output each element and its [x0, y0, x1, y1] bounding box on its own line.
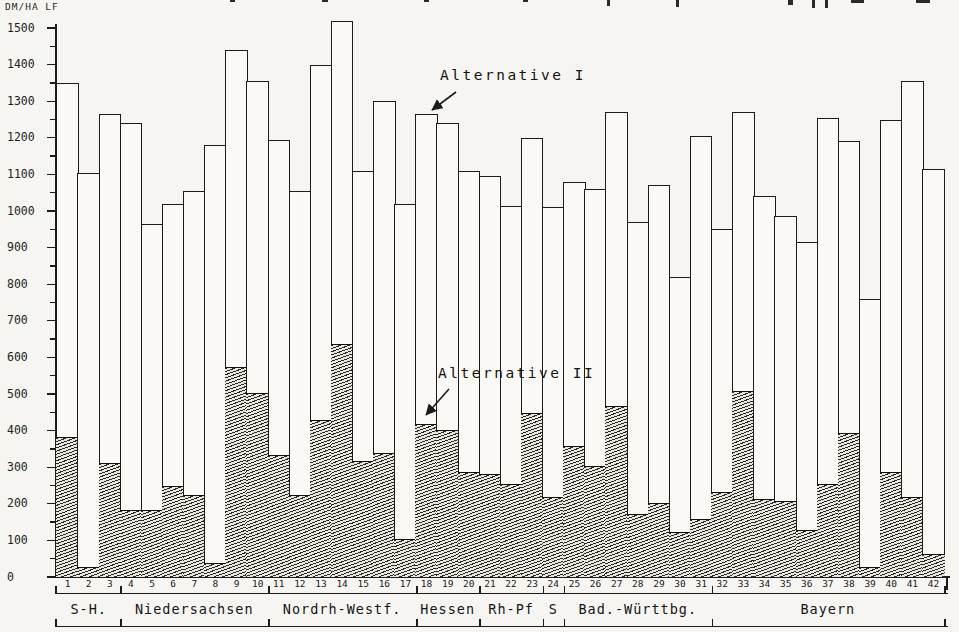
bar-alternative-2-segment: [732, 391, 755, 577]
bar-alternative-1: [648, 185, 671, 577]
bar-alternative-1: [859, 299, 882, 577]
x-tick-label: 2: [78, 578, 99, 589]
region-boundary-tick: [120, 619, 122, 627]
bar-alternative-2-segment: [99, 463, 122, 577]
bar-alternative-2-segment: [838, 433, 861, 577]
bar-alternative-1: [901, 81, 924, 577]
bar-alternative-1: [605, 112, 628, 577]
bar-alternative-2-segment: [521, 413, 544, 577]
bar-alternative-2-segment: [352, 461, 375, 577]
y-tick-label: 300: [7, 462, 49, 473]
y-tick-label: 0: [7, 572, 49, 583]
region-label: S-H.: [57, 601, 120, 617]
x-tick-label: 21: [479, 578, 500, 589]
annotation-alternative-2: Alternative II: [438, 365, 595, 381]
bar-alternative-1: [415, 114, 438, 577]
x-tick-label: 11: [268, 578, 289, 589]
bar-alternative-2-segment: [415, 424, 438, 577]
y-minor-tick: [50, 302, 55, 303]
x-tick-label: 17: [395, 578, 416, 589]
bar-alternative-2-segment: [310, 420, 333, 577]
x-tick-label: 26: [585, 578, 606, 589]
y-tick-label: 1200: [7, 132, 49, 143]
bar-alternative-1: [922, 169, 945, 577]
region-boundary-tick: [479, 586, 481, 594]
y-tick-label: 1000: [7, 206, 49, 217]
region-label: Nordrh-Westf.: [268, 601, 416, 617]
bar-alternative-1: [669, 277, 692, 577]
x-tick-label: 22: [501, 578, 522, 589]
bar-alternative-1: [310, 65, 333, 577]
y-tick-label: 1400: [7, 59, 49, 70]
x-tick-label: 32: [712, 578, 733, 589]
bar-alternative-2-segment: [563, 446, 586, 577]
bar-alternative-1: [289, 191, 312, 577]
bar-alternative-2-segment: [373, 453, 396, 577]
x-tick-label: 37: [817, 578, 838, 589]
region-boundary-tick: [416, 586, 418, 594]
bar-alternative-2-segment: [753, 499, 776, 577]
y-tick-label: 1100: [7, 169, 49, 180]
y-minor-tick: [50, 558, 55, 559]
y-minor-tick: [50, 375, 55, 376]
region-boundary-tick: [55, 586, 57, 594]
bar-alternative-2-segment: [479, 474, 502, 577]
region-boundary-tick: [712, 586, 714, 594]
bar-chart-canvas: DM/HA LF 0100200300400500600700800900100…: [0, 0, 959, 632]
region-label: S: [543, 601, 564, 617]
x-axis-end-tick: [946, 576, 948, 590]
bar-alternative-1: [162, 204, 185, 577]
region-boundary-tick: [564, 586, 566, 594]
region-label: Rh-Pf: [479, 601, 542, 617]
bar-alternative-1: [77, 173, 100, 577]
bar-alternative-2-segment: [500, 484, 523, 577]
y-axis-unit-label: DM/HA LF: [5, 1, 59, 12]
bar-alternative-1: [521, 138, 544, 577]
bar-alternative-1: [141, 224, 164, 577]
x-tick-label: 14: [332, 578, 353, 589]
bar-alternative-2-segment: [289, 495, 312, 577]
region-boundary-tick: [944, 586, 946, 594]
bar-alternative-1: [500, 206, 523, 577]
x-tick-label: 24: [543, 578, 564, 589]
bar-alternative-1: [56, 83, 79, 577]
x-tick-label: 5: [141, 578, 162, 589]
bar-alternative-2-segment: [901, 497, 924, 577]
y-minor-tick: [50, 448, 55, 449]
y-minor-tick: [50, 229, 55, 230]
y-tick-label: 1500: [7, 23, 49, 34]
bar-alternative-2-segment: [394, 539, 417, 577]
bar-alternative-2-segment: [584, 466, 607, 577]
bar-alternative-1: [268, 140, 291, 577]
region-boundary-tick: [268, 619, 270, 627]
bar-alternative-2-segment: [77, 567, 100, 577]
bar-alternative-1: [331, 21, 354, 577]
x-tick-label: 4: [120, 578, 141, 589]
y-tick-label: 500: [7, 389, 49, 400]
bar-alternative-2-segment: [141, 510, 164, 577]
bar-alternative-2-segment: [859, 567, 882, 577]
bar-alternative-1: [246, 81, 269, 577]
x-tick-label: 34: [754, 578, 775, 589]
x-tick-label: 28: [627, 578, 648, 589]
bar-alternative-1: [753, 196, 776, 577]
bar-alternative-2-segment: [627, 514, 650, 577]
y-minor-tick: [50, 265, 55, 266]
bar-alternative-2-segment: [268, 455, 291, 577]
bar-alternative-1: [542, 207, 565, 577]
y-tick-label: 700: [7, 315, 49, 326]
x-tick-label: 25: [564, 578, 585, 589]
x-tick-label: 23: [522, 578, 543, 589]
y-minor-tick: [50, 192, 55, 193]
bar-alternative-1: [204, 145, 227, 577]
annotation-alternative-1: Alternative I: [440, 67, 586, 83]
x-tick-label: 30: [669, 578, 690, 589]
bar-alternative-2-segment: [605, 406, 628, 577]
bar-alternative-2-segment: [436, 430, 459, 577]
y-tick-label: 1300: [7, 96, 49, 107]
bar-alternative-2-segment: [796, 530, 819, 577]
bar-alternative-1: [99, 114, 122, 577]
bar-alternative-1: [183, 191, 206, 577]
bar-alternative-1: [817, 118, 840, 577]
bar-alternative-1: [838, 141, 861, 577]
